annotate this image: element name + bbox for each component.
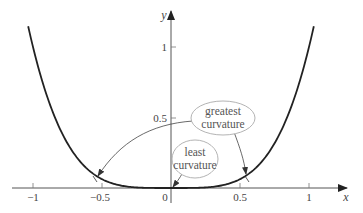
x-axis: −1 −0.5 0 0.5 1 x (12, 183, 349, 204)
x-tick-label: −1 (27, 191, 39, 203)
arrow-greatest-right (234, 132, 246, 174)
y-tick-label: 1 (162, 41, 168, 53)
y-axis-label: y (160, 8, 167, 22)
callout-line-1: least (184, 146, 206, 158)
callout-line-2: curvature (201, 118, 244, 130)
x-tick-label: 1 (306, 191, 312, 203)
callout-line-1: greatest (205, 105, 242, 118)
x-tick-label: 0 (162, 191, 168, 203)
x-tick-label: 0.5 (233, 191, 247, 203)
callout-line-2: curvature (173, 159, 216, 171)
x-tick-label: −0.5 (90, 191, 110, 203)
y-axis: 1 0.5 y (153, 8, 176, 203)
y-tick-label: 0.5 (153, 112, 167, 124)
greatest-curvature-mark-right (245, 176, 249, 182)
x-axis-label: x (342, 190, 349, 204)
curvature-chart: −1 −0.5 0 0.5 1 x 1 0.5 y greatest curva… (0, 0, 363, 213)
callout-least-curvature: least curvature (172, 140, 218, 187)
